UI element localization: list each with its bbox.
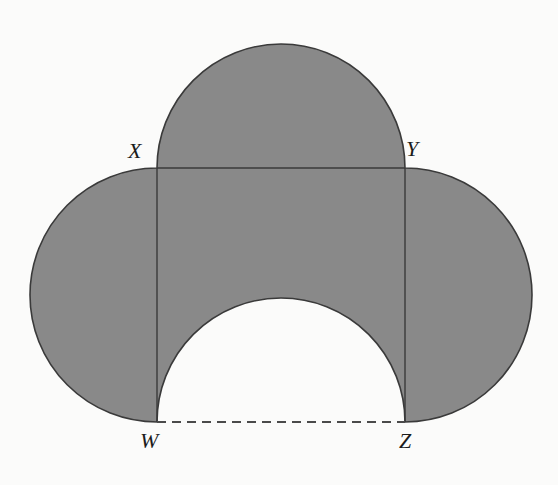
shaded-region-path xyxy=(30,44,532,422)
vertex-label-x: X xyxy=(128,140,141,162)
shaded-region-group xyxy=(30,44,532,422)
vertex-label-w: W xyxy=(140,430,158,452)
vertex-label-y: Y xyxy=(406,138,418,160)
vertex-label-z: Z xyxy=(399,430,411,452)
geometry-figure: X Y W Z xyxy=(0,0,558,485)
geometry-diagram xyxy=(0,0,558,485)
